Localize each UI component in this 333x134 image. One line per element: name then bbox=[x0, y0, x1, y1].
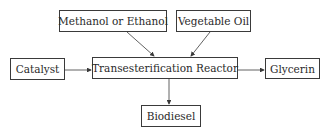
node-label: Methanol or Ethanol bbox=[58, 15, 168, 27]
node-methanol-or-ethanol: Methanol or Ethanol bbox=[59, 10, 167, 32]
node-biodiesel: Biodiesel bbox=[141, 105, 201, 127]
node-label: Catalyst bbox=[16, 63, 60, 75]
node-label: Glycerin bbox=[270, 63, 315, 75]
node-transesterification-reactor: Transesterification Reactor bbox=[92, 57, 238, 79]
node-label: Biodiesel bbox=[147, 110, 196, 122]
node-label: Vegetable Oil bbox=[178, 15, 249, 27]
node-vegetable-oil: Vegetable Oil bbox=[176, 10, 251, 32]
arrow-vegoil-to-reactor bbox=[191, 32, 210, 56]
node-catalyst: Catalyst bbox=[10, 58, 65, 80]
node-glycerin: Glycerin bbox=[265, 58, 320, 79]
arrow-methanol-to-reactor bbox=[127, 32, 154, 56]
node-label: Transesterification Reactor bbox=[92, 62, 238, 74]
